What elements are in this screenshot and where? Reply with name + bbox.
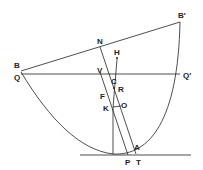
label-q: Q — [14, 73, 20, 82]
point-r — [113, 87, 115, 89]
parabola-diagram: B Q B′ Q′ N H V C R F K O A P T — [0, 0, 203, 170]
label-r: R — [118, 85, 124, 94]
label-t: T — [136, 158, 141, 167]
label-v: V — [97, 66, 103, 75]
label-f: F — [100, 92, 105, 101]
label-k: K — [103, 104, 109, 113]
label-b: B — [14, 61, 20, 70]
line-b-bprime — [21, 22, 180, 71]
label-h: H — [114, 48, 120, 57]
label-n: N — [97, 37, 103, 46]
line-n-t — [100, 47, 136, 154]
label-c: C — [111, 77, 117, 86]
label-p: P — [125, 158, 131, 167]
label-o: O — [121, 101, 127, 110]
label-q-prime: Q′ — [183, 71, 191, 80]
point-h — [116, 57, 118, 59]
label-a: A — [134, 143, 140, 152]
label-b-prime: B′ — [178, 11, 186, 20]
